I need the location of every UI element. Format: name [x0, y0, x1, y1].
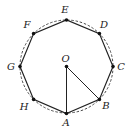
point-a [65, 112, 69, 116]
point-e [65, 18, 69, 22]
label-b: B [101, 100, 109, 111]
point-b [98, 98, 102, 102]
point-g [18, 65, 22, 69]
point-o [65, 65, 69, 69]
label-h: H [19, 101, 29, 112]
octagon-diagram: ABCDEFGHO [0, 0, 132, 136]
label-f: F [23, 19, 32, 30]
segment-ob [67, 67, 100, 100]
label-g: G [7, 61, 15, 72]
label-e: E [60, 4, 69, 15]
label-d: D [99, 19, 108, 30]
label-c: C [117, 61, 125, 72]
label-a: A [61, 117, 69, 128]
label-o: O [61, 53, 69, 64]
point-d [98, 32, 102, 36]
point-f [32, 32, 36, 36]
point-c [111, 65, 115, 69]
point-h [32, 98, 36, 102]
